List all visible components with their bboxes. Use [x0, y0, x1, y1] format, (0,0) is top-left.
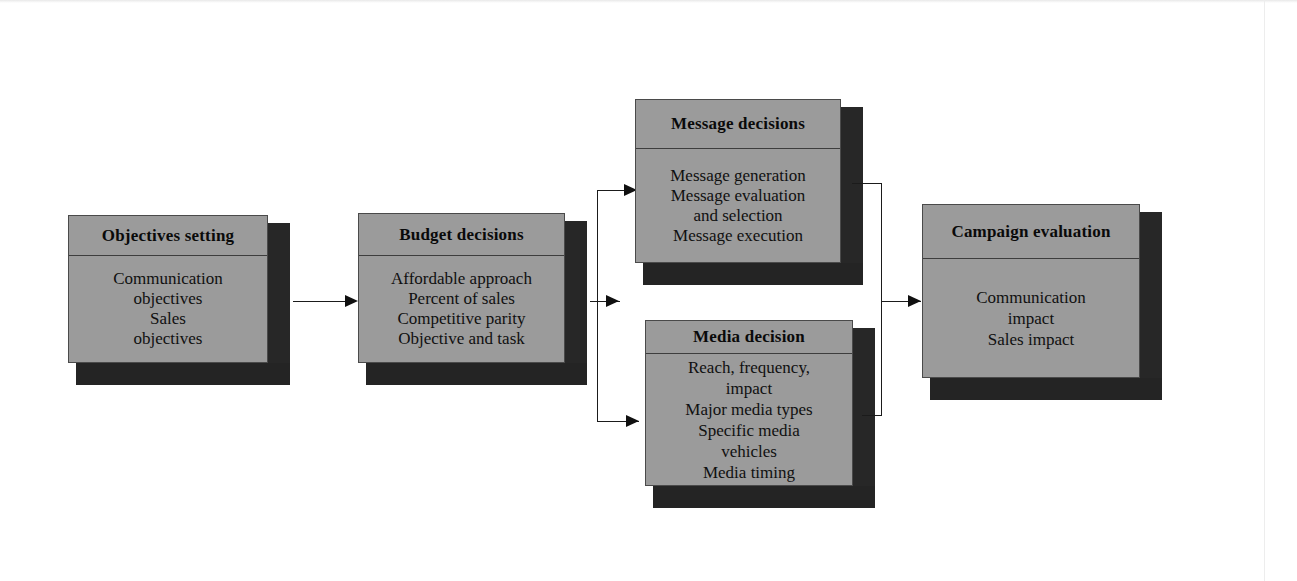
box-face: Objectives setting Communication objecti… [68, 215, 268, 363]
connector-merge-trunk [881, 183, 882, 416]
box-body-line: impact [1008, 308, 1054, 329]
box-body-line: impact [726, 378, 772, 399]
box-message-decisions[interactable]: Message decisions Message generation Mes… [635, 99, 863, 285]
box-title: Campaign evaluation [923, 205, 1139, 259]
box-title: Budget decisions [359, 214, 564, 256]
box-shadow-right [853, 328, 875, 508]
connector-split-trunk [597, 190, 598, 421]
box-body-line: Sales impact [988, 329, 1074, 350]
diagram-canvas: Objectives setting Communication objecti… [0, 0, 1297, 581]
box-body-line: objectives [134, 289, 203, 309]
box-body-line: Communication [976, 287, 1086, 308]
box-body: Reach, frequency, impact Major media typ… [646, 354, 852, 485]
box-body-line: Communication [113, 269, 223, 289]
box-shadow-bottom [366, 363, 587, 385]
box-face: Message decisions Message generation Mes… [635, 99, 841, 263]
box-media-decision[interactable]: Media decision Reach, frequency, impact … [645, 320, 875, 508]
box-body-line: Message evaluation [671, 186, 806, 206]
box-shadow-right [841, 107, 863, 285]
box-campaign-evaluation[interactable]: Campaign evaluation Communication impact… [922, 204, 1162, 400]
box-shadow-bottom [76, 363, 290, 385]
box-body-line: Affordable approach [391, 269, 532, 289]
arrowhead-merge-to-campaign [908, 295, 921, 307]
box-body-line: Reach, frequency, [688, 357, 810, 378]
box-body: Affordable approach Percent of sales Com… [359, 256, 564, 362]
box-body: Communication impact Sales impact [923, 259, 1139, 377]
scan-edge-right [1264, 0, 1265, 581]
box-shadow-right [268, 223, 290, 385]
box-body: Message generation Message evaluation an… [636, 149, 840, 262]
box-shadow-right [565, 221, 587, 385]
connector-media-to-merge [862, 415, 882, 416]
box-body-line: Sales [150, 309, 186, 329]
scan-edge-top [0, 0, 1297, 3]
box-body-line: Message generation [670, 166, 805, 186]
box-shadow-bottom [653, 486, 875, 508]
box-shadow-bottom [930, 378, 1162, 400]
arrowhead-split-to-media [626, 415, 639, 427]
box-title: Objectives setting [69, 216, 267, 256]
box-body-line: Objective and task [398, 329, 525, 349]
box-body-line: Specific media [698, 420, 800, 441]
box-shadow-bottom [643, 263, 863, 285]
box-title: Message decisions [636, 100, 840, 149]
connector-objectives-to-budget [293, 301, 348, 302]
box-objectives-setting[interactable]: Objectives setting Communication objecti… [68, 215, 290, 385]
box-face: Campaign evaluation Communication impact… [922, 204, 1140, 378]
box-body-line: objectives [134, 329, 203, 349]
box-body-line: Major media types [685, 399, 812, 420]
connector-message-to-merge [852, 183, 882, 184]
box-shadow-right [1140, 212, 1162, 400]
box-body-line: and selection [693, 206, 782, 226]
arrowhead-budget-to-split [606, 295, 619, 307]
box-face: Media decision Reach, frequency, impact … [645, 320, 853, 486]
box-body-line: Media timing [703, 462, 795, 483]
box-body-line: Message execution [673, 226, 803, 246]
box-face: Budget decisions Affordable approach Per… [358, 213, 565, 363]
box-budget-decisions[interactable]: Budget decisions Affordable approach Per… [358, 213, 587, 385]
arrowhead-objectives-to-budget [345, 295, 358, 307]
box-body-line: Percent of sales [408, 289, 515, 309]
box-body-line: vehicles [721, 441, 777, 462]
box-body-line: Competitive parity [398, 309, 526, 329]
box-title: Media decision [646, 321, 852, 354]
box-body: Communication objectives Sales objective… [69, 256, 267, 362]
